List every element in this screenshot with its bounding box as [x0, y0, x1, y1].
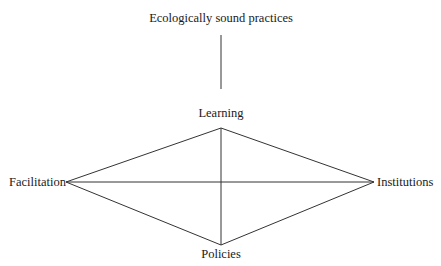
- diagram-lines: [0, 0, 441, 266]
- node-learning: Learning: [198, 107, 243, 120]
- node-facilitation: Facilitation: [9, 176, 66, 189]
- diagram-canvas: Ecologically sound practices Learning Fa…: [0, 0, 441, 266]
- edge-diamond-outline: [66, 128, 374, 245]
- node-policies: Policies: [201, 248, 241, 261]
- node-institutions: Institutions: [377, 176, 433, 189]
- node-ecologically-sound-practices: Ecologically sound practices: [149, 12, 293, 25]
